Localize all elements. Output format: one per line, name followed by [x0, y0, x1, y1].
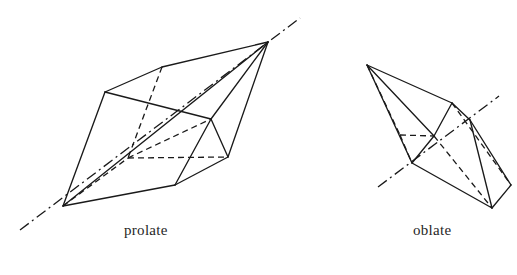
oblate-edge: [367, 65, 434, 136]
oblate-hidden-edges: [367, 65, 511, 208]
prolate-edge: [105, 92, 211, 119]
oblate-rhombohedron: [367, 65, 511, 208]
oblate-hidden-edge: [400, 135, 434, 136]
oblate-edge: [452, 103, 470, 120]
prolate-caption: prolate: [124, 222, 168, 239]
prolate-edge: [63, 185, 175, 206]
prolate-edge: [228, 42, 268, 157]
oblate-edge: [412, 163, 492, 208]
oblate-edge: [367, 65, 452, 103]
oblate-edge: [367, 65, 412, 163]
oblate-visible-edges: [367, 65, 511, 208]
prolate-rhombohedron: [20, 18, 300, 230]
oblate-symmetry-axis: [378, 96, 499, 187]
oblate-hidden-edge: [452, 103, 511, 185]
oblate-edge: [492, 185, 511, 208]
oblate-caption: oblate: [413, 222, 451, 239]
prolate-hidden-edge: [128, 157, 228, 158]
rhombohedra-figure: prolate oblate: [0, 0, 517, 275]
oblate-edge: [470, 120, 511, 185]
oblate-edge: [412, 136, 434, 163]
prolate-visible-edges: [63, 42, 268, 206]
oblate-edge: [434, 103, 452, 136]
prolate-hidden-edges: [63, 67, 228, 206]
prolate-edge: [211, 119, 228, 157]
